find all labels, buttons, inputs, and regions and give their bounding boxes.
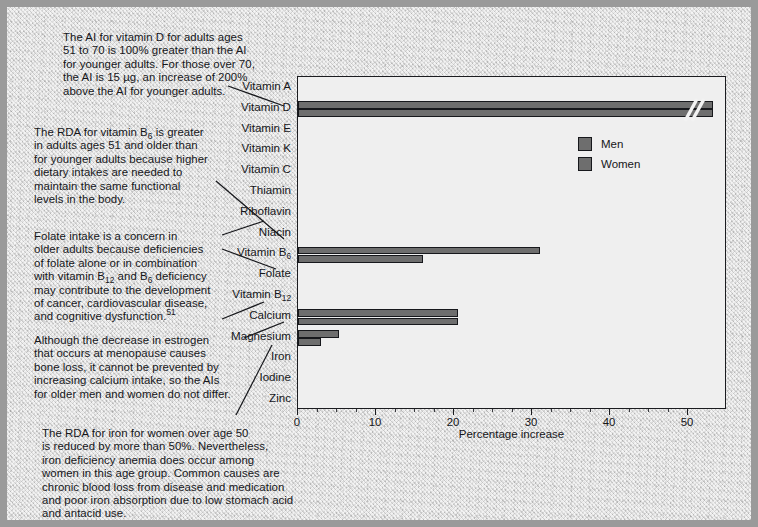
legend-label-men: Men — [601, 138, 623, 150]
bar-row — [298, 245, 727, 267]
category-label: Iodine — [150, 370, 291, 383]
category-label: Zinc — [150, 391, 291, 404]
bar-row — [298, 120, 727, 142]
x-tick-minor — [317, 409, 318, 412]
bar-women — [298, 338, 321, 346]
bar-men — [298, 101, 713, 109]
bar-row — [298, 286, 727, 308]
category-label: Magnesium — [150, 329, 291, 342]
bar-row — [298, 203, 727, 225]
bar-women — [298, 255, 423, 263]
x-tick-minor — [395, 409, 396, 412]
category-label: Vitamin D — [150, 100, 291, 113]
x-tick-minor — [668, 409, 669, 412]
x-tick-minor — [492, 409, 493, 412]
x-tick-label: 10 — [369, 416, 382, 428]
x-tick-minor — [356, 409, 357, 412]
bar-men — [298, 247, 540, 255]
category-label: Vitamin E — [150, 121, 291, 134]
category-label: Thiamin — [150, 183, 291, 196]
category-label: Vitamin K — [150, 141, 291, 154]
bar-men — [298, 309, 458, 317]
bar-row — [298, 224, 727, 246]
plot-area — [297, 76, 726, 409]
category-label: Vitamin C — [150, 162, 291, 175]
x-tick-minor — [570, 409, 571, 412]
x-tick-label: 40 — [603, 416, 616, 428]
x-tick-minor — [414, 409, 415, 412]
x-tick-label: 20 — [447, 416, 460, 428]
category-label: Riboflavin — [150, 204, 291, 217]
x-tick-major — [453, 409, 454, 415]
bar-row — [298, 369, 727, 391]
bar-row — [298, 182, 727, 204]
x-tick-minor — [551, 409, 552, 412]
bar-row — [298, 265, 727, 287]
legend-swatch-women — [578, 157, 592, 171]
category-label: Iron — [150, 349, 291, 362]
x-tick-minor — [336, 409, 337, 412]
legend-item-men: Men — [578, 134, 640, 154]
bar-row — [298, 349, 727, 371]
x-tick-label: 0 — [294, 416, 300, 428]
legend-swatch-men — [578, 137, 592, 151]
category-label: Vitamin B12 — [150, 287, 291, 300]
x-tick-major — [609, 409, 610, 415]
bar-men — [298, 330, 339, 338]
bar-women — [298, 109, 713, 117]
bar-series-container — [298, 77, 725, 408]
x-tick-major — [375, 409, 376, 415]
annotation-folate-l4b: and B — [114, 270, 147, 282]
category-label: Vitamin A — [150, 79, 291, 92]
bar-row — [298, 78, 727, 100]
x-tick-minor — [473, 409, 474, 412]
category-label: Calcium — [150, 308, 291, 321]
x-tick-minor — [648, 409, 649, 412]
annotation-folate-l7a: and cognitive dysfunction. — [34, 310, 166, 322]
x-axis-title: Percentage increase — [297, 428, 726, 440]
x-tick-major — [297, 409, 298, 415]
x-tick-major — [687, 409, 688, 415]
legend-item-women: Women — [578, 154, 640, 174]
x-tick-label: 30 — [525, 416, 538, 428]
annotation-b6-text-pre: The RDA for vitamin B — [34, 126, 148, 138]
legend: Men Women — [578, 134, 640, 174]
category-label: Folate — [150, 266, 291, 279]
bar-row — [298, 307, 727, 329]
category-label: Vitamin B6 — [150, 245, 291, 258]
bar-row — [298, 161, 727, 183]
x-tick-label: 50 — [681, 416, 694, 428]
legend-label-women: Women — [601, 158, 640, 170]
x-tick-minor — [590, 409, 591, 412]
bar-row — [298, 99, 727, 121]
x-tick-minor — [512, 409, 513, 412]
bar-row — [298, 328, 727, 350]
bar-row — [298, 140, 727, 162]
x-tick-minor — [434, 409, 435, 412]
category-label: Niacin — [150, 225, 291, 238]
annotation-folate-l4a: with vitamin B — [34, 270, 105, 282]
category-axis-labels: Vitamin AVitamin DVitamin EVitamin KVita… — [150, 76, 291, 409]
annotation-iron: The RDA for iron for women over age 50 i… — [42, 427, 310, 521]
bar-women — [298, 318, 458, 326]
x-tick-minor — [629, 409, 630, 412]
x-tick-major — [531, 409, 532, 415]
